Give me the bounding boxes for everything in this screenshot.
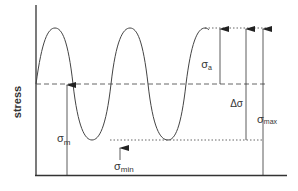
sigma-max-label: σmax — [257, 113, 278, 125]
stress-cycle-diagram: stress σa σm σmin Δσ σmax — [0, 0, 298, 191]
delta-sigma-label: Δσ — [230, 98, 244, 109]
y-axis-label: stress — [11, 86, 23, 118]
sigma-min-label: σmin — [114, 160, 134, 174]
sigma-m-label: σm — [57, 132, 71, 147]
sigma-a-label: σa — [201, 58, 212, 71]
